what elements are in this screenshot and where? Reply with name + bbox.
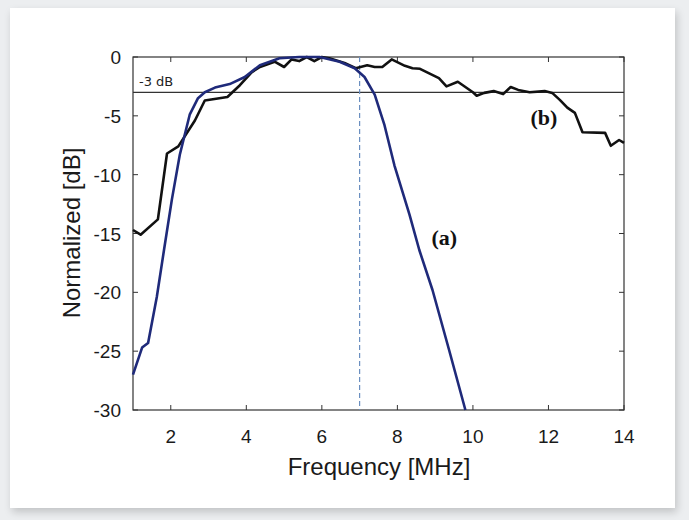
x-axis-title: Frequency [MHz] [288, 453, 471, 480]
x-tick-label: 10 [462, 426, 483, 447]
series-b-annotation: (b) [530, 105, 557, 130]
x-tick-label: 2 [165, 426, 176, 447]
plot-area: 24681012140-5-10-15-20-25-30 -3 dB (a) (… [94, 47, 635, 447]
y-tick-label: -5 [104, 106, 121, 127]
x-tick-label: 4 [241, 426, 252, 447]
series-b-line [133, 57, 624, 235]
y-tick-label: -20 [94, 282, 121, 303]
minus-3db-label: -3 dB [139, 74, 173, 89]
x-tick-label: 8 [392, 426, 403, 447]
x-tick-label: 6 [317, 426, 328, 447]
x-tick-label: 12 [538, 426, 559, 447]
x-tick-label: 14 [613, 426, 635, 447]
y-tick-label: -25 [94, 341, 121, 362]
series-a-line [133, 57, 465, 410]
y-axis-title: Normalized [dB] [58, 148, 85, 319]
y-tick-label: -10 [94, 165, 121, 186]
y-tick-label: -30 [94, 400, 121, 421]
frequency-response-chart: 24681012140-5-10-15-20-25-30 -3 dB (a) (… [0, 0, 689, 520]
y-tick-label: -15 [94, 224, 121, 245]
series-a-annotation: (a) [431, 225, 457, 250]
y-tick-label: 0 [110, 47, 121, 68]
